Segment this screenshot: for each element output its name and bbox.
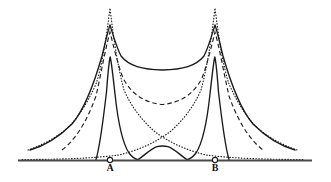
curve-central-dip — [138, 146, 187, 160]
curve-outer-dotted-left — [28, 8, 304, 160]
axis-label-b: B — [208, 163, 222, 173]
curve-outer-dotted-right — [21, 8, 297, 160]
two-center-field-plot — [0, 0, 331, 182]
curve-upper-solid — [30, 25, 295, 150]
curve-inner-peak-b — [187, 57, 229, 160]
curve-inner-peak-a — [96, 57, 138, 160]
axis-label-a: A — [103, 163, 117, 173]
figure-container: A B — [0, 0, 331, 182]
